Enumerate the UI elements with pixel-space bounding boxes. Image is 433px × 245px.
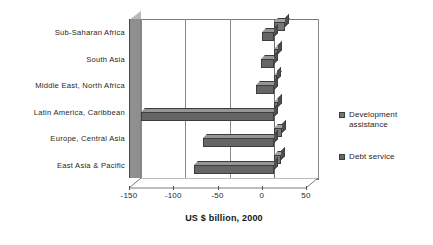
category-label: East Asia & Pacific <box>0 160 125 169</box>
bar-front-face <box>203 138 274 147</box>
value-axis-title: US $ billion, 2000 <box>129 213 319 223</box>
bar-front-face <box>262 32 274 41</box>
legend-label: Debt service <box>349 152 395 162</box>
bar-front-face <box>256 85 274 94</box>
legend-entry[interactable]: Debt service <box>339 152 395 162</box>
value-axis-tick <box>306 186 307 190</box>
value-axis-tick <box>173 186 174 190</box>
legend-label: Development assistance <box>349 110 429 129</box>
value-axis-tick-label: 50 <box>301 191 310 200</box>
category-label: Middle East, North Africa <box>0 81 125 90</box>
category-axis-labels: Sub-Saharan AfricaSouth AsiaMiddle East,… <box>0 26 129 186</box>
value-axis: -150-100-50050 <box>129 186 319 194</box>
bar-front-face <box>194 165 274 174</box>
bar-debt-service <box>141 112 274 121</box>
category-label: Europe, Central Asia <box>0 134 125 143</box>
legend-swatch-icon <box>339 154 345 160</box>
value-axis-tick-label: -100 <box>165 191 182 200</box>
bar-debt-service <box>262 32 274 41</box>
bar-debt-service <box>203 138 274 147</box>
bar-front-face <box>141 112 274 121</box>
resource-flows-chart: Resource flows Sub-Saharan AfricaSouth A… <box>0 0 433 245</box>
category-label: Latin America, Caribbean <box>0 107 125 116</box>
bar-debt-service <box>194 165 274 174</box>
category-label: Sub-Saharan Africa <box>0 28 125 37</box>
category-label: South Asia <box>0 54 125 63</box>
bar-front-face <box>261 59 273 68</box>
gridline <box>185 19 186 178</box>
bar-debt-service <box>261 59 273 68</box>
value-axis-tick <box>262 186 263 190</box>
value-axis-tick <box>129 186 130 190</box>
gridline <box>230 19 231 178</box>
gridline <box>318 19 319 178</box>
value-axis-tick <box>218 186 219 190</box>
plot-area <box>129 11 319 186</box>
value-axis-tick-label: -50 <box>211 191 223 200</box>
legend-swatch-icon <box>339 112 345 118</box>
bar-debt-service <box>256 85 274 94</box>
value-axis-tick-label: 0 <box>259 191 264 200</box>
legend-entry[interactable]: Development assistance <box>339 110 429 129</box>
gridline <box>141 19 142 178</box>
value-axis-tick-label: -150 <box>121 191 138 200</box>
